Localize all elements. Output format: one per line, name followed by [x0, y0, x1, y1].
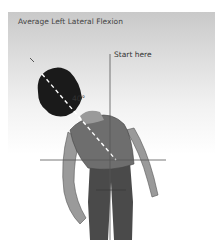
lateral-flexion-figure: Average Left Lateral Flexion Start here … — [8, 12, 215, 249]
pants — [88, 162, 133, 240]
hair — [38, 67, 82, 116]
spine-line-tick — [30, 58, 34, 62]
start-here-label: Start here — [114, 50, 152, 59]
torso-top — [70, 115, 134, 169]
angle-label: 40° — [72, 94, 85, 103]
figure-title: Average Left Lateral Flexion — [18, 17, 123, 26]
person-lateral-flexion-illustration — [8, 12, 215, 249]
